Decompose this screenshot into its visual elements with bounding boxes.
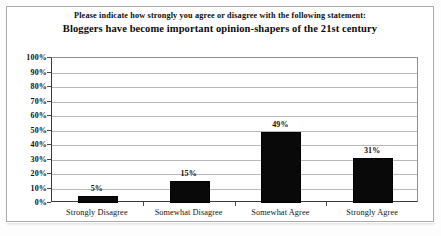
y-axis-tick-label: 20% bbox=[3, 169, 47, 178]
y-axis-tick-mark bbox=[47, 101, 51, 102]
y-axis-tick-mark bbox=[47, 130, 51, 131]
y-axis-tick-label: 0% bbox=[3, 198, 47, 207]
y-axis-tick-mark bbox=[47, 72, 51, 73]
gridline bbox=[52, 145, 417, 146]
x-axis-category-label: Strongly Disagree bbox=[66, 208, 128, 217]
y-axis-tick-label: 60% bbox=[3, 111, 47, 120]
y-axis-tick-mark bbox=[47, 188, 51, 189]
y-axis-tick-mark bbox=[47, 159, 51, 160]
y-axis-tick-mark bbox=[47, 86, 51, 87]
y-axis-tick-label: 40% bbox=[3, 140, 47, 149]
y-axis-tick-label: 30% bbox=[3, 154, 47, 163]
bar-value-label: 5% bbox=[91, 184, 103, 193]
y-axis: 100%90%80%70%60%50%40%30%20%10%0% bbox=[0, 57, 47, 202]
gridline bbox=[52, 131, 417, 132]
plot-area bbox=[51, 57, 418, 202]
y-axis-tick-label: 50% bbox=[3, 125, 47, 134]
chart-title-line-2: Bloggers have become important opinion-s… bbox=[20, 22, 420, 36]
x-axis-category-label: Strongly Agree bbox=[346, 208, 398, 217]
bar bbox=[261, 132, 301, 203]
chart-figure: Please indicate how strongly you agree o… bbox=[0, 0, 441, 236]
x-axis-tick-mark bbox=[235, 202, 236, 206]
y-axis-tick-mark bbox=[47, 57, 51, 58]
x-axis-tick-mark bbox=[326, 202, 327, 206]
bar-value-label: 49% bbox=[272, 120, 288, 129]
chart-title-line-1: Please indicate how strongly you agree o… bbox=[20, 10, 420, 21]
gridline bbox=[52, 73, 417, 74]
y-axis-tick-label: 10% bbox=[3, 183, 47, 192]
gridline bbox=[52, 116, 417, 117]
bar-value-label: 31% bbox=[364, 146, 380, 155]
y-axis-tick-label: 70% bbox=[3, 96, 47, 105]
scan-shadow bbox=[7, 223, 435, 226]
y-axis-tick-mark bbox=[47, 115, 51, 116]
gridline bbox=[52, 87, 417, 88]
y-axis-tick-mark bbox=[47, 144, 51, 145]
bar bbox=[170, 181, 210, 203]
x-axis-category-label: Somewhat Agree bbox=[251, 208, 309, 217]
bar bbox=[78, 196, 118, 203]
y-axis-tick-label: 90% bbox=[3, 67, 47, 76]
x-axis-tick-mark bbox=[143, 202, 144, 206]
y-axis-tick-label: 100% bbox=[3, 53, 47, 62]
x-axis-category-label: Somewhat Disagree bbox=[155, 208, 223, 217]
chart-title: Please indicate how strongly you agree o… bbox=[20, 10, 420, 36]
gridline bbox=[52, 102, 417, 103]
y-axis-tick-label: 80% bbox=[3, 82, 47, 91]
bar-value-label: 15% bbox=[180, 169, 196, 178]
y-axis-tick-mark bbox=[47, 173, 51, 174]
y-axis-tick-mark bbox=[47, 202, 51, 203]
bar bbox=[353, 158, 393, 203]
